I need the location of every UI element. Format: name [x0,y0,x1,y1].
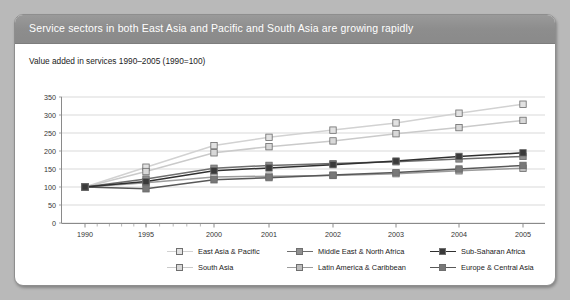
chart-gridlines [59,97,545,223]
legend-label: Europe & Central Asia [461,263,534,272]
chart-series-lines [85,104,523,189]
svg-text:2001: 2001 [261,230,277,239]
svg-text:300: 300 [44,111,56,120]
svg-text:150: 150 [44,165,56,174]
legend-marker-icon [176,248,183,255]
svg-text:0: 0 [52,219,56,228]
chart-plot-area: 050100150200250300350 199019952000200120… [15,71,556,241]
legend-label: South Asia [198,263,233,272]
legend-entry[interactable]: South Asia [167,259,260,275]
svg-text:2000: 2000 [206,230,222,239]
legend-swatch-icon [430,262,456,273]
legend-swatch-icon [167,246,193,257]
svg-text:2005: 2005 [515,230,531,239]
svg-text:1990: 1990 [77,230,93,239]
line-chart: 050100150200250300350 199019952000200120… [15,71,556,241]
chart-x-axis-labels: 19901995200020012002200320042005 [77,230,531,239]
legend-label: East Asia & Pacific [198,247,260,256]
legend-swatch-icon [167,262,193,273]
legend-entry[interactable]: Sub-Saharan Africa [430,243,534,259]
figure-title: Service sectors in both East Asia and Pa… [29,22,413,34]
legend-entry[interactable]: East Asia & Pacific [167,243,260,259]
svg-text:2004: 2004 [451,230,467,239]
legend-column-1: East Asia & Pacific South Asia [167,243,260,275]
legend-label: Sub-Saharan Africa [461,247,525,256]
svg-text:2003: 2003 [388,230,404,239]
legend-swatch-icon [430,246,456,257]
legend-label: Latin America & Caribbean [318,263,406,272]
svg-text:1995: 1995 [138,230,154,239]
legend-marker-icon [176,264,183,271]
legend-swatch-icon [287,262,313,273]
svg-text:350: 350 [44,93,56,102]
svg-text:250: 250 [44,129,56,138]
chart-subtitle: Value added in services 1990–2005 (1990=… [29,56,205,66]
svg-text:200: 200 [44,147,56,156]
svg-text:100: 100 [44,183,56,192]
legend-marker-icon [296,264,303,271]
svg-text:50: 50 [48,201,56,210]
svg-text:2002: 2002 [325,230,341,239]
figure-title-bar: Service sectors in both East Asia and Pa… [15,15,555,44]
legend-label: Middle East & North Africa [318,247,404,256]
legend-swatch-icon [287,246,313,257]
legend-entry[interactable]: Latin America & Caribbean [287,259,406,275]
legend-marker-icon [439,264,446,271]
legend-column-2: Middle East & North Africa Latin America… [287,243,406,275]
legend-entry[interactable]: Europe & Central Asia [430,259,534,275]
legend-marker-icon [296,248,303,255]
legend-marker-icon [439,248,446,255]
legend-entry[interactable]: Middle East & North Africa [287,243,406,259]
chart-legend: East Asia & Pacific South Asia Middle Ea… [15,243,556,277]
chart-y-axis-labels: 050100150200250300350 [44,93,56,228]
figure-card: Service sectors in both East Asia and Pa… [14,14,556,286]
legend-column-3: Sub-Saharan Africa Europe & Central Asia [430,243,534,275]
